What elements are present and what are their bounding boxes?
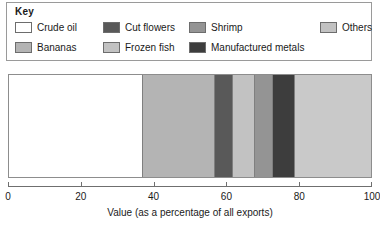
legend-item-frozen-fish: Frozen fish <box>103 41 174 54</box>
legend-swatch-cut-flowers <box>103 22 120 33</box>
plot-area <box>8 74 372 178</box>
x-axis-tick <box>81 182 82 187</box>
x-axis-tick-label: 0 <box>5 191 11 202</box>
stacked-bar <box>9 75 371 177</box>
legend-swatch-frozen-fish <box>103 42 120 53</box>
bar-segment-others <box>294 75 371 177</box>
bar-segment-crude-oil <box>9 75 143 177</box>
x-axis-tick <box>226 182 227 187</box>
legend-label-bananas: Bananas <box>37 42 76 53</box>
legend-label-shrimp: Shrimp <box>211 22 243 33</box>
bar-segment-shrimp <box>254 75 273 177</box>
x-axis-tick-label: 80 <box>294 191 305 202</box>
legend-label-crude-oil: Crude oil <box>37 22 77 33</box>
x-axis-title: Value (as a percentage of all exports) <box>0 207 380 218</box>
legend-item-cut-flowers: Cut flowers <box>103 21 175 34</box>
x-axis-tick <box>299 182 300 187</box>
x-axis-tick-label: 100 <box>364 191 380 202</box>
legend-label-frozen-fish: Frozen fish <box>125 42 174 53</box>
legend-item-manufactured-metals: Manufactured metals <box>189 41 304 54</box>
legend-item-shrimp: Shrimp <box>189 21 243 34</box>
x-axis-tick <box>154 182 155 187</box>
bar-segment-bananas <box>142 75 215 177</box>
bar-segment-manufactured-metals <box>272 75 295 177</box>
legend-label-cut-flowers: Cut flowers <box>125 22 175 33</box>
legend-swatch-crude-oil <box>15 22 32 33</box>
x-axis: 020406080100 <box>8 186 372 187</box>
x-axis-tick-label: 60 <box>221 191 232 202</box>
bar-segment-cut-flowers <box>214 75 233 177</box>
chart-legend: Key Crude oil Cut flowers Shrimp Others … <box>6 2 372 61</box>
x-axis-tick <box>8 182 9 187</box>
legend-item-others: Others <box>320 21 372 34</box>
legend-swatch-others <box>320 22 337 33</box>
legend-label-others: Others <box>342 22 372 33</box>
legend-label-manufactured-metals: Manufactured metals <box>211 42 304 53</box>
bar-segment-frozen-fish <box>232 75 255 177</box>
legend-item-crude-oil: Crude oil <box>15 21 77 34</box>
legend-item-bananas: Bananas <box>15 41 76 54</box>
x-axis-tick-label: 20 <box>75 191 86 202</box>
legend-swatch-shrimp <box>189 22 206 33</box>
legend-swatch-bananas <box>15 42 32 53</box>
x-axis-tick-label: 40 <box>148 191 159 202</box>
legend-swatch-manufactured-metals <box>189 42 206 53</box>
x-axis-tick <box>371 182 372 187</box>
legend-title: Key <box>15 6 34 17</box>
